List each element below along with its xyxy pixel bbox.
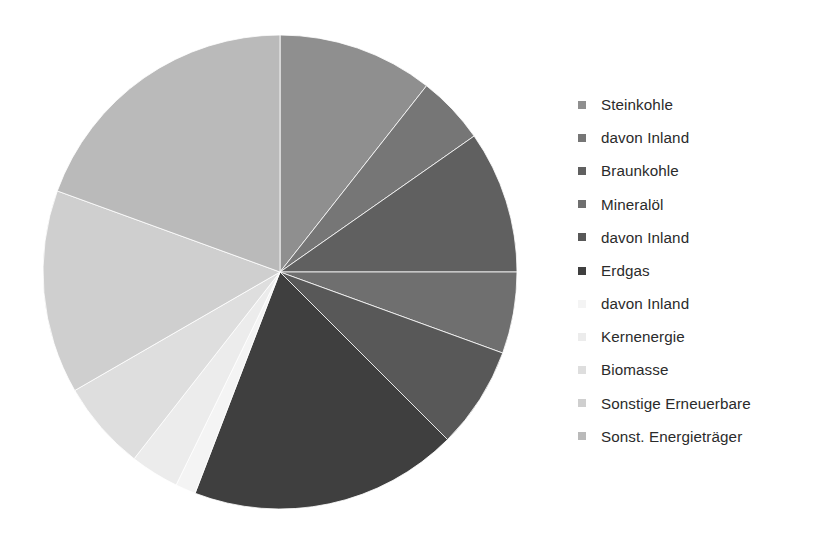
- pie-chart-figure: Steinkohle davon Inland Braunkohle Miner…: [0, 0, 834, 548]
- chart-legend: Steinkohle davon Inland Braunkohle Miner…: [578, 88, 828, 453]
- legend-item-label: davon Inland: [601, 230, 689, 245]
- legend-item-label: Sonst. Energieträger: [601, 429, 742, 444]
- legend-swatch-icon: [578, 233, 586, 241]
- legend-swatch-icon: [578, 267, 586, 275]
- legend-item-label: Braunkohle: [601, 163, 679, 178]
- legend-item-mineraloel[interactable]: Mineralöl: [578, 188, 828, 221]
- legend-item-label: davon Inland: [601, 130, 689, 145]
- legend-swatch-icon: [578, 134, 586, 142]
- legend-item-label: Mineralöl: [601, 197, 664, 212]
- legend-item-mineraloel-davon-inland[interactable]: davon Inland: [578, 221, 828, 254]
- pie-chart-plot-area: [40, 28, 524, 516]
- legend-item-kernenergie[interactable]: Kernenergie: [578, 320, 828, 353]
- legend-item-braunkohle[interactable]: Braunkohle: [578, 154, 828, 187]
- legend-item-label: Sonstige Erneuerbare: [601, 396, 751, 411]
- bottom-divider: [0, 540, 834, 541]
- legend-item-label: Kernenergie: [601, 329, 685, 344]
- legend-item-steinkohle-davon-inland[interactable]: davon Inland: [578, 121, 828, 154]
- legend-swatch-icon: [578, 333, 586, 341]
- legend-item-label: Steinkohle: [601, 97, 673, 112]
- legend-swatch-icon: [578, 399, 586, 407]
- legend-item-label: Erdgas: [601, 263, 650, 278]
- legend-item-erdgas[interactable]: Erdgas: [578, 254, 828, 287]
- legend-swatch-icon: [578, 200, 586, 208]
- legend-item-sonstige-erneuerbare[interactable]: Sonstige Erneuerbare: [578, 387, 828, 420]
- legend-item-steinkohle[interactable]: Steinkohle: [578, 88, 828, 121]
- legend-swatch-icon: [578, 300, 586, 308]
- pie-chart-svg: [40, 28, 524, 516]
- legend-swatch-icon: [578, 366, 586, 374]
- legend-swatch-icon: [578, 101, 586, 109]
- legend-item-sonst-energietraeger[interactable]: Sonst. Energieträger: [578, 420, 828, 453]
- pie-slice-group: [43, 35, 517, 509]
- legend-item-biomasse[interactable]: Biomasse: [578, 354, 828, 387]
- legend-item-label: Biomasse: [601, 362, 668, 377]
- legend-swatch-icon: [578, 432, 586, 440]
- legend-swatch-icon: [578, 167, 586, 175]
- legend-item-label: davon Inland: [601, 296, 689, 311]
- legend-item-erdgas-davon-inland[interactable]: davon Inland: [578, 287, 828, 320]
